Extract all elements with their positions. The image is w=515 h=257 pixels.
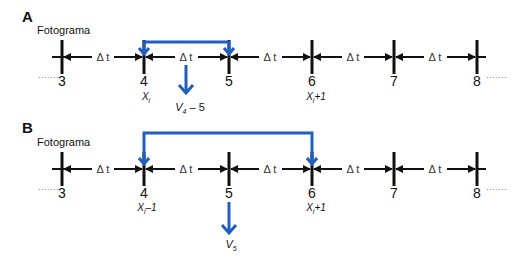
- bracket-a: [139, 42, 234, 93]
- frame-4-a: 4: [140, 73, 148, 89]
- position-xi-plus-1-a: Xi+1: [306, 91, 326, 104]
- frame-5-b: 5: [225, 185, 233, 201]
- interval-label: Δ t: [97, 51, 110, 63]
- interval-label: Δ t: [264, 51, 277, 63]
- frame-5-a: 5: [225, 73, 233, 89]
- timeline-graphics: [0, 0, 515, 257]
- frame-label-a: Fotograma: [37, 24, 90, 36]
- frame-6-b: 6: [308, 185, 316, 201]
- leading-dots-b: ·······: [38, 184, 59, 194]
- frame-8-b: 8: [473, 185, 481, 201]
- interval-label: Δ t: [180, 51, 193, 63]
- panel-a-letter: A: [22, 8, 33, 25]
- interval-label: Δ t: [97, 163, 110, 175]
- trailing-dots-a: ·······: [486, 72, 507, 82]
- frame-label-b: Fotograma: [37, 136, 90, 148]
- timeline-a: [52, 40, 486, 93]
- interval-label: Δ t: [429, 51, 442, 63]
- frame-3-b: 3: [58, 185, 66, 201]
- trailing-dots-b: ·······: [486, 184, 507, 194]
- velocity-label-b: V5: [225, 238, 236, 252]
- interval-label: Δ t: [429, 163, 442, 175]
- frame-7-b: 7: [390, 185, 398, 201]
- interval-label: Δ t: [347, 163, 360, 175]
- velocity-label-a: V4 – 5: [175, 101, 205, 115]
- leading-dots-a: ·······: [38, 72, 59, 82]
- frame-4-b: 4: [140, 185, 148, 201]
- frame-3-a: 3: [58, 73, 66, 89]
- panel-b-letter: B: [22, 119, 33, 136]
- position-xi-minus-1-b: Xi–1: [137, 202, 156, 215]
- frame-7-a: 7: [390, 73, 398, 89]
- frame-6-a: 6: [308, 73, 316, 89]
- timeline-b: [52, 133, 486, 233]
- interval-label: Δ t: [347, 51, 360, 63]
- frame-8-a: 8: [473, 73, 481, 89]
- interval-label: Δ t: [264, 163, 277, 175]
- position-xi-a: Xi: [142, 91, 150, 104]
- position-xi-plus-1-b: Xi+1: [306, 202, 326, 215]
- interval-label: Δ t: [180, 163, 193, 175]
